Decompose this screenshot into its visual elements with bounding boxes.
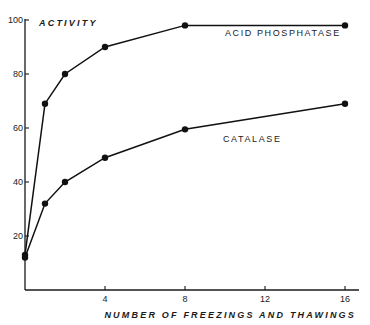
data-point: [102, 44, 108, 50]
series-label: ACID PHOSPHATASE: [225, 28, 341, 38]
data-point: [42, 101, 48, 107]
series-group: ACID PHOSPHATASECATALASE: [22, 22, 348, 261]
axes: [25, 19, 359, 290]
line-chart: 20406080100 481216 ACTIVITY NUMBER OF FR…: [0, 0, 370, 325]
y-ticks: 20406080100: [8, 15, 29, 241]
y-tick-label: 100: [8, 15, 23, 25]
y-tick-label: 80: [13, 69, 23, 79]
data-point: [182, 126, 188, 132]
series-acid-phosphatase: ACID PHOSPHATASE: [22, 22, 348, 258]
series-label: CATALASE: [223, 134, 281, 144]
x-ticks: 481216: [102, 286, 350, 304]
x-tick-label: 8: [182, 294, 187, 304]
data-point: [62, 71, 68, 77]
data-point: [182, 22, 188, 28]
x-tick-label: 4: [102, 294, 107, 304]
data-point: [22, 254, 28, 260]
data-point: [62, 179, 68, 185]
data-point: [342, 22, 348, 28]
x-tick-label: 12: [260, 294, 270, 304]
data-point: [42, 200, 48, 206]
x-tick-label: 16: [340, 294, 350, 304]
y-axis-title: ACTIVITY: [38, 18, 98, 28]
y-tick-label: 40: [13, 177, 23, 187]
x-axis-title: NUMBER OF FREEZINGS AND THAWINGS: [104, 310, 356, 320]
data-point: [102, 155, 108, 161]
series-line: [25, 25, 345, 255]
data-point: [342, 101, 348, 107]
series-catalase: CATALASE: [22, 101, 348, 261]
y-tick-label: 20: [13, 231, 23, 241]
y-tick-label: 60: [13, 123, 23, 133]
